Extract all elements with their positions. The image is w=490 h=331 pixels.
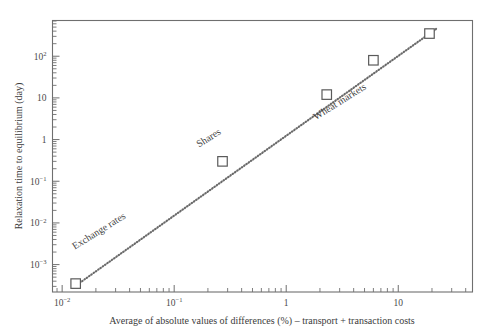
y-tick-label-4: 10−2	[30, 217, 47, 229]
x-axis-tick-labels: 10−210−1110	[54, 296, 403, 308]
y-axis-minor-ticks	[53, 21, 57, 286]
annotation-shares: Shares	[194, 126, 223, 150]
trendline-path	[73, 29, 437, 288]
data-point-exchange-rates	[71, 279, 81, 289]
plot-frame	[53, 21, 473, 293]
scatter-plot-svg: 10−210−1110 10210110−110−210−3 Exchange …	[0, 0, 490, 331]
x-tick-label-2: 1	[284, 298, 289, 308]
data-point-shares	[218, 157, 228, 167]
y-tick-label-5: 10−3	[30, 258, 47, 270]
y-axis-title: Relaxation time to equilibrium (day)	[13, 83, 25, 230]
data-point-wheat-markets-3	[425, 29, 435, 39]
y-tick-label-2: 1	[42, 135, 47, 145]
y-tick-label-1: 10	[37, 93, 47, 103]
y-tick-label-0: 102	[34, 50, 47, 62]
data-point-wheat-markets-1	[322, 90, 332, 100]
x-axis-title: Average of absolute values of difference…	[109, 315, 415, 327]
y-tick-label-3: 10−1	[30, 175, 47, 187]
data-point-wheat-markets-2	[369, 56, 379, 65]
chart-figure: 10−210−1110 10210110−110−210−3 Exchange …	[0, 0, 490, 331]
x-tick-label-0: 10−2	[54, 296, 71, 308]
annotation-wheat-markets: Wheat markets	[311, 81, 368, 122]
x-axis-major-ticks	[62, 285, 398, 292]
x-tick-label-1: 10−1	[166, 296, 183, 308]
trendline	[73, 29, 437, 288]
annotation-exchange-rates: Exchange rates	[70, 210, 127, 252]
y-axis-tick-labels: 10210110−110−210−3	[30, 50, 47, 270]
y-axis-major-ticks	[53, 56, 60, 264]
x-tick-label-3: 10	[394, 298, 404, 308]
x-axis-minor-ticks	[57, 288, 466, 292]
